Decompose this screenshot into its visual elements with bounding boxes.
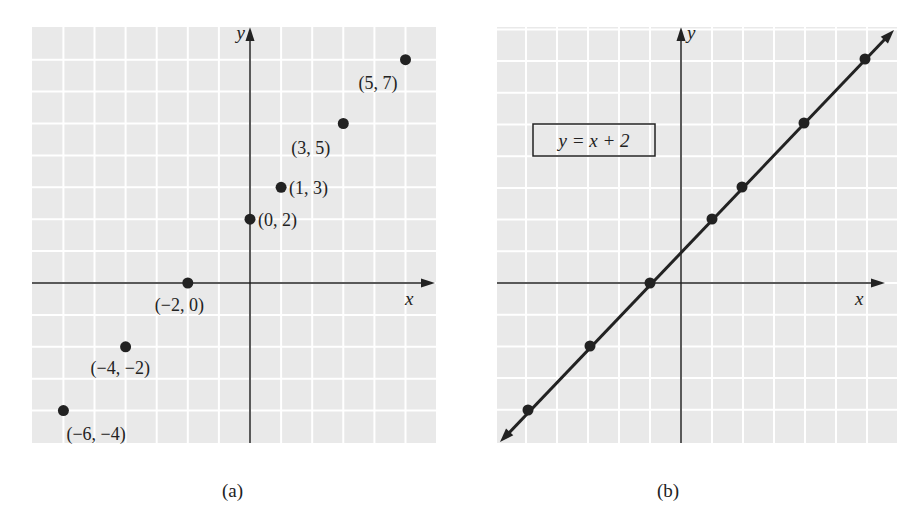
data-point — [120, 341, 131, 352]
data-point — [400, 54, 411, 65]
line-point — [860, 54, 871, 65]
point-label: (1, 3) — [289, 178, 328, 199]
data-point — [276, 182, 287, 193]
panel-a: xy(−6, −4)(−4, −2)(−2, 0)(0, 2)(1, 3)(3,… — [0, 0, 460, 519]
equation-label: y = x + 2 — [556, 130, 630, 151]
point-label: (5, 7) — [359, 73, 398, 94]
line-plot-b: xyy = x + 2 — [460, 0, 921, 519]
x-axis-label: x — [404, 288, 414, 309]
y-axis-label: y — [235, 22, 246, 43]
line-point — [799, 118, 810, 129]
line-point — [737, 182, 748, 193]
point-label: (−4, −2) — [91, 358, 150, 379]
x-axis-label: x — [854, 288, 864, 309]
data-point — [338, 118, 349, 129]
caption-b: (b) — [657, 480, 679, 502]
scatter-plot-a: xy(−6, −4)(−4, −2)(−2, 0)(0, 2)(1, 3)(3,… — [0, 0, 460, 519]
point-label: (0, 2) — [258, 210, 297, 231]
point-label: (−2, 0) — [155, 295, 204, 316]
line-point — [645, 278, 656, 289]
data-point — [245, 214, 256, 225]
point-label: (3, 5) — [291, 138, 330, 159]
line-point — [585, 341, 596, 352]
data-point — [182, 278, 193, 289]
line-point — [523, 405, 534, 416]
panel-b: xyy = x + 2 — [460, 0, 921, 519]
line-point — [707, 214, 718, 225]
point-label: (−6, −4) — [66, 424, 125, 445]
y-axis-label: y — [685, 22, 696, 43]
caption-a: (a) — [222, 480, 243, 502]
data-point — [58, 405, 69, 416]
